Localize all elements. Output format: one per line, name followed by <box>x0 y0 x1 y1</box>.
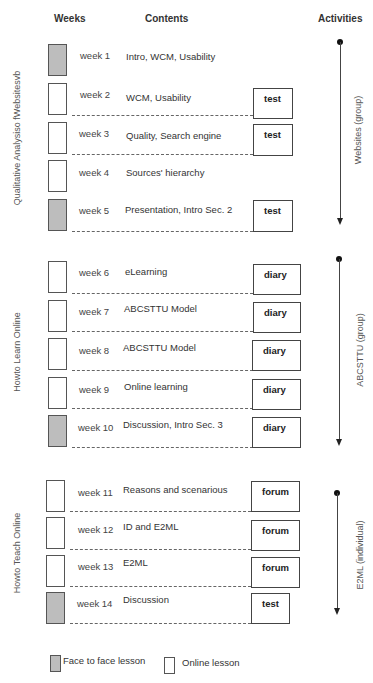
row-divider <box>72 293 253 294</box>
week-label: week 5 <box>79 205 109 216</box>
row-divider <box>72 447 253 448</box>
week-label: week 9 <box>79 384 109 395</box>
activity-box-diary: diary <box>253 302 301 333</box>
activity-box-test: test <box>253 88 293 119</box>
row-divider <box>70 549 251 550</box>
week-content: ABCSTTU Model <box>123 342 196 353</box>
section-label-websites: Qualitative Analysiso fWebsitesvb <box>12 71 22 205</box>
week-label: week 6 <box>79 267 109 278</box>
week-content: Presentation, Intro Sec. 2 <box>125 204 232 215</box>
activity-box-diary: diary <box>252 417 301 448</box>
week-label: week 13 <box>78 561 113 572</box>
row-divider <box>72 408 253 409</box>
week-content: Discussion <box>123 594 169 605</box>
online-marker <box>48 122 67 154</box>
row-divider <box>72 370 253 371</box>
face-to-face-marker <box>48 199 67 231</box>
week-content: Reasons and scenarious <box>123 484 228 495</box>
week-content: Sources' hierarchy <box>126 167 204 178</box>
timeline-line <box>340 42 341 219</box>
face-to-face-marker <box>48 415 67 447</box>
online-marker <box>48 160 67 192</box>
legend-face-to-face-label: Face to face lesson <box>63 655 145 666</box>
row-divider <box>70 511 251 512</box>
row-divider <box>70 623 251 624</box>
week-label: week 10 <box>78 422 113 433</box>
activity-box-test: test <box>253 124 293 156</box>
week-label: week 7 <box>79 306 109 317</box>
activity-box-diary: diary <box>253 264 301 295</box>
legend-online-label: Online lesson <box>182 657 240 668</box>
row-divider <box>72 231 253 232</box>
week-label: week 11 <box>78 487 113 498</box>
week-content: Intro, WCM, Usability <box>126 51 215 62</box>
row-divider <box>72 331 253 332</box>
activity-box-test: test <box>253 200 293 232</box>
week-content: ID and E2ML <box>123 521 178 532</box>
week-content: Quality, Search engine <box>126 130 221 141</box>
activity-box-diary: diary <box>252 379 301 410</box>
week-label: week 4 <box>79 167 109 178</box>
online-marker <box>46 517 65 549</box>
online-marker <box>48 261 67 293</box>
online-marker <box>48 83 67 115</box>
week-content: ABCSTTU Model <box>124 303 197 314</box>
row-divider <box>70 586 251 587</box>
weeks-header: Weeks <box>54 13 86 24</box>
activities-header: Activities <box>318 13 362 24</box>
timeline-line <box>339 259 340 440</box>
section-label-learn-online: Howto Learn Online <box>12 312 22 392</box>
timeline-line <box>337 493 338 609</box>
week-content: E2ML <box>123 557 148 568</box>
activity-box-forum: forum <box>251 481 300 512</box>
arrow-down-icon <box>334 608 340 615</box>
activity-box-forum: forum <box>251 520 300 551</box>
activity-box-diary: diary <box>252 340 301 371</box>
face-to-face-marker <box>46 592 65 624</box>
week-label: week 12 <box>78 524 113 535</box>
week-label: week 14 <box>77 598 112 609</box>
activity-box-forum: forum <box>251 557 300 588</box>
activity-label-abcsttu: ABCSTTU (group) <box>355 313 365 387</box>
section-label-teach-online: Howto Teach Online <box>12 513 22 593</box>
activity-label-e2ml: E2ML (individual) <box>355 520 365 589</box>
row-divider <box>72 154 253 155</box>
week-label: week 8 <box>79 345 109 356</box>
online-marker <box>48 300 67 332</box>
arrow-down-icon <box>337 218 343 225</box>
activity-label-websites: Websites (group) <box>353 96 363 164</box>
face-to-face-marker <box>48 44 67 76</box>
online-marker <box>48 377 67 409</box>
legend-face-to-face-swatch <box>50 655 61 672</box>
week-label: week 1 <box>80 50 110 61</box>
arrow-down-icon <box>336 439 342 446</box>
week-content: WCM, Usability <box>126 92 191 103</box>
row-divider <box>72 115 253 116</box>
online-marker <box>48 338 67 370</box>
online-marker <box>46 555 65 587</box>
week-label: week 2 <box>80 89 110 100</box>
week-content: Online learning <box>124 381 188 392</box>
online-marker <box>46 480 65 512</box>
activity-box-test: test <box>251 593 290 624</box>
contents-header: Contents <box>145 13 188 24</box>
legend-online-swatch <box>164 657 175 674</box>
week-label: week 3 <box>79 128 109 139</box>
week-content: eLearning <box>125 266 167 277</box>
week-content: Discussion, Intro Sec. 3 <box>123 419 223 430</box>
